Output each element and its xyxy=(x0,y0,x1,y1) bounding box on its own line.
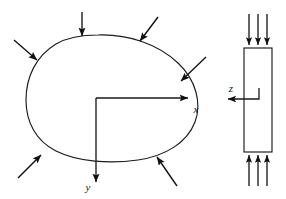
z-axis-label: z xyxy=(228,82,234,94)
x-axis-label: x xyxy=(193,103,199,115)
load-arrow-upper-left xyxy=(14,40,37,60)
load-arrow-right xyxy=(181,57,206,81)
y-axis-label: y xyxy=(85,181,91,193)
plate-cross-section xyxy=(244,48,272,152)
load-arrow-bottom-right xyxy=(157,157,177,186)
plate-plan-view: x y xyxy=(14,12,206,193)
edge-bottom-load-arrows xyxy=(249,155,267,186)
edge-top-load-arrows xyxy=(249,14,267,45)
plate-loading-figure: x y xyxy=(0,0,286,199)
plan-axes: x y xyxy=(85,98,199,193)
load-arrow-lower-left xyxy=(18,155,41,178)
figure-canvas: x y xyxy=(0,0,286,199)
plate-edge-view: z xyxy=(228,14,272,186)
load-arrow-top-right xyxy=(140,17,158,41)
plan-load-arrows xyxy=(14,12,206,186)
